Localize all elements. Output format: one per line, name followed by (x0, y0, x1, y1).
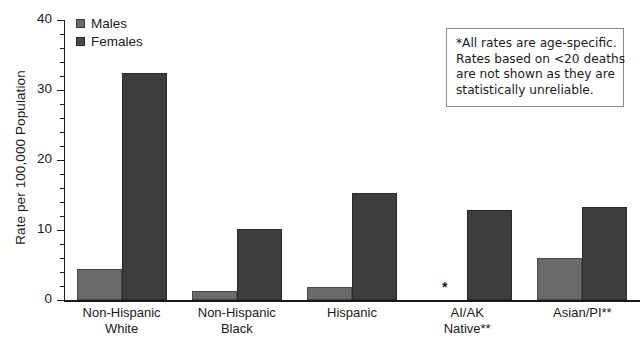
x-label-line1: Asian/PI** (553, 305, 612, 320)
legend-label-females: Females (91, 34, 143, 49)
y-axis-ticks: 010203040 (0, 0, 64, 349)
y-tick-label: 20 (37, 151, 52, 167)
legend-item-males: Males (76, 16, 143, 31)
x-axis-labels: Non-HispanicWhiteNon-HispanicBlackHispan… (64, 305, 640, 349)
y-tick-label: 0 (44, 291, 52, 307)
tick-mark (57, 230, 64, 231)
bar-females-non-hispanic-black (237, 229, 282, 300)
bar-males-non-hispanic-black (192, 291, 237, 300)
x-label-line1: Non-Hispanic (198, 305, 276, 320)
bar-females-asian-pi (582, 207, 627, 300)
legend: Males Females (76, 16, 143, 52)
bar-chart: Rate per 100,000 Population 010203040 * … (0, 0, 643, 349)
bar-males-asian-pi (537, 258, 582, 300)
bar-males-non-hispanic-white (77, 269, 122, 300)
bar-females-hispanic (352, 193, 397, 300)
footnote-box: *All rates are age-specific. Rates based… (446, 28, 624, 107)
x-label-line2: Native** (398, 321, 537, 337)
footnote-line-1: *All rates are age-specific. (456, 36, 614, 52)
y-tick-label: 30 (37, 81, 52, 97)
x-axis-label-asian-pi: Asian/PI** (513, 305, 643, 321)
bar-females-non-hispanic-white (122, 73, 167, 300)
bar-suppressed-marker: * (422, 281, 467, 293)
y-tick-label: 40 (37, 11, 52, 27)
legend-item-females: Females (76, 34, 143, 49)
footnote-line-4: statistically unreliable. (456, 83, 614, 99)
tick-mark (57, 300, 64, 301)
footnote-line-3: are not shown as they are (456, 67, 614, 83)
bar-males-hispanic (307, 287, 352, 300)
y-tick-label: 10 (37, 221, 52, 237)
legend-label-males: Males (91, 16, 127, 31)
footnote-line-2: Rates based on <20 deaths (456, 52, 614, 68)
bar-females-ai-ak-native (467, 210, 512, 300)
x-label-line2: Black (167, 321, 306, 337)
legend-swatch-males-icon (76, 19, 85, 28)
tick-mark (57, 160, 64, 161)
tick-mark (57, 90, 64, 91)
legend-swatch-females-icon (76, 37, 85, 46)
x-label-line1: Hispanic (327, 305, 377, 320)
x-label-line1: AI/AK (451, 305, 484, 320)
tick-mark (57, 20, 64, 21)
x-label-line1: Non-Hispanic (83, 305, 161, 320)
